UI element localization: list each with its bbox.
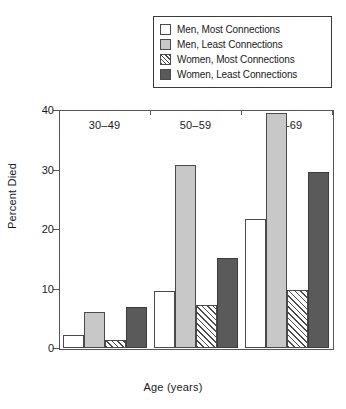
bar (126, 307, 147, 348)
chart-legend: Men, Most Connections Men, Least Connect… (153, 16, 332, 88)
bar (245, 219, 266, 348)
y-axis-title: Percent Died (6, 163, 18, 229)
bar (287, 290, 308, 348)
legend-label: Women, Most Connections (177, 54, 295, 65)
bar (308, 172, 329, 348)
legend-swatch-hatch-icon (160, 54, 171, 65)
legend-swatch-dark-gray-icon (160, 69, 171, 80)
bar (175, 165, 196, 348)
x-axis-tick (332, 110, 333, 115)
bar (266, 113, 287, 348)
legend-label: Men, Least Connections (177, 39, 283, 50)
y-axis-tick-label: 40 (42, 105, 54, 116)
legend-swatch-light-gray-icon (160, 39, 171, 50)
x-axis-title: Age (years) (0, 381, 346, 393)
x-axis-group-label: 50–59 (180, 119, 212, 131)
bar (217, 258, 238, 348)
x-axis-group-label: 30–49 (89, 119, 121, 131)
bar (196, 305, 217, 348)
legend-label: Men, Most Connections (177, 24, 280, 35)
legend-item-women-least: Women, Least Connections (160, 67, 324, 82)
x-axis-tick (241, 110, 242, 115)
legend-item-men-least: Men, Least Connections (160, 37, 324, 52)
legend-item-women-most: Women, Most Connections (160, 52, 324, 67)
legend-swatch-white-icon (160, 24, 171, 35)
y-axis-tick-label: 0 (48, 343, 54, 354)
bar (84, 312, 105, 348)
x-axis-tick (59, 110, 60, 115)
y-axis-tick-label: 10 (42, 283, 54, 294)
legend-item-men-most: Men, Most Connections (160, 22, 324, 37)
legend-label: Women, Least Connections (177, 69, 297, 80)
bar (154, 291, 175, 348)
y-axis-tick-label: 30 (42, 164, 54, 175)
plot-area: 01020304030–4950–5960–69 (59, 110, 332, 348)
bar (63, 335, 84, 348)
y-axis-tick-label: 20 (42, 224, 54, 235)
x-axis-tick (150, 110, 151, 115)
bar-chart: Men, Most Connections Men, Least Connect… (0, 0, 346, 409)
bar (105, 340, 126, 348)
